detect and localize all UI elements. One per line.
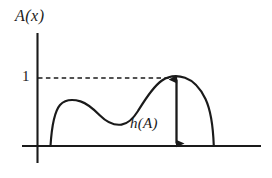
fuzzy-set-height-figure: A(x) 1 h(A) bbox=[0, 0, 272, 178]
plot-canvas bbox=[0, 0, 272, 178]
y-axis-label: A(x) bbox=[15, 8, 45, 24]
height-annotation-label: h(A) bbox=[130, 116, 158, 131]
y-axis-tick-label-one: 1 bbox=[22, 69, 30, 84]
membership-function-curve bbox=[51, 76, 214, 146]
